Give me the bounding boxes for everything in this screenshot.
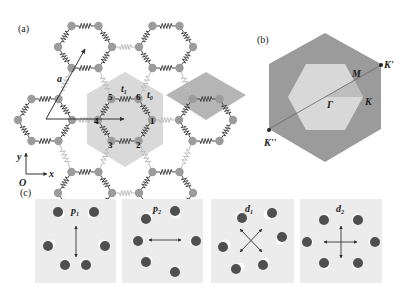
site-label-6: 6 — [136, 92, 141, 102]
lattice-site — [108, 43, 116, 51]
k-prime-label: K' — [383, 59, 394, 70]
lattice-site — [229, 116, 237, 124]
lattice-site — [135, 43, 143, 51]
lattice-site — [188, 137, 196, 145]
displaced-site — [319, 215, 329, 225]
k-double-prime-dot — [267, 128, 271, 132]
displaced-site — [191, 236, 201, 246]
site-label-1: 1 — [150, 116, 155, 126]
lattice-site — [215, 95, 223, 103]
k-prime-dot — [379, 63, 383, 67]
displaced-site — [170, 267, 180, 277]
panel-b-label: (b) — [257, 34, 269, 46]
panel-b: (b) K' K'' M K Γ — [257, 33, 394, 162]
lattice-site — [94, 64, 102, 72]
displaced-site — [370, 237, 380, 247]
displaced-site — [170, 206, 180, 216]
mode-d1: d1 — [211, 199, 294, 283]
displaced-site — [53, 207, 63, 217]
lattice-site — [148, 168, 156, 176]
lattice-site — [135, 189, 143, 197]
k-point-label: K — [364, 96, 373, 107]
mode-d2: d2 — [300, 199, 382, 283]
x-axis-label: x — [48, 168, 54, 179]
mode-p1: p1 — [35, 199, 116, 283]
displaced-site — [141, 214, 151, 224]
lattice-site — [54, 43, 62, 51]
lattice-site — [67, 168, 75, 176]
y-axis-label: y — [16, 151, 22, 162]
mode-p2: p2 — [122, 199, 203, 283]
lattice-site — [215, 137, 223, 145]
unit-cell-diamond — [166, 72, 246, 120]
lattice-site — [175, 116, 183, 124]
displaced-site — [353, 215, 363, 225]
panel-a: (a) a t1 t0 1 2 3 4 5 6 x y O — [14, 22, 246, 217]
displaced-site — [258, 260, 268, 270]
lattice-site — [188, 95, 196, 103]
lattice-site — [54, 137, 62, 145]
displaced-site — [319, 258, 329, 268]
lattice-site — [27, 95, 35, 103]
m-point-label: M — [351, 68, 362, 79]
displaced-site — [141, 257, 151, 267]
displaced-site — [277, 232, 287, 242]
k-double-prime-label: K'' — [263, 137, 276, 148]
site-label-4: 4 — [94, 116, 99, 126]
displaced-site — [43, 241, 53, 251]
figure-canvas: (a) a t1 t0 1 2 3 4 5 6 x y O (b) — [0, 0, 408, 291]
spring — [180, 141, 193, 172]
gamma-point-label: Γ — [326, 99, 334, 110]
displaced-site — [231, 264, 241, 274]
lattice-site — [27, 137, 35, 145]
lattice-site — [148, 22, 156, 30]
displaced-site — [60, 260, 70, 270]
site-label-3: 3 — [108, 140, 113, 150]
lattice-site — [94, 22, 102, 30]
displaced-site — [100, 241, 110, 251]
lattice-site — [68, 116, 76, 124]
displaced-site — [81, 260, 91, 270]
lattice-site — [67, 22, 75, 30]
lattice-site — [108, 189, 116, 197]
displaced-site — [133, 236, 143, 246]
lattice-site — [54, 189, 62, 197]
displaced-site — [353, 258, 363, 268]
lattice-site — [189, 189, 197, 197]
displaced-site — [267, 208, 277, 218]
lattice-site — [148, 64, 156, 72]
lattice-site — [94, 168, 102, 176]
lattice-site — [14, 116, 22, 124]
displaced-site — [302, 237, 312, 247]
panel-c: (c) p1 p2 d1 d2 — [20, 187, 382, 283]
panel-c-label: (c) — [20, 187, 31, 199]
lattice-site — [189, 43, 197, 51]
displaced-site — [237, 213, 247, 223]
panel-a-label: (a) — [18, 23, 29, 35]
lattice-site — [175, 22, 183, 30]
displaced-site — [89, 207, 99, 217]
lattice-vector-label: a — [57, 73, 62, 84]
displaced-site — [218, 242, 228, 252]
site-label-5: 5 — [108, 92, 113, 102]
lattice-site — [175, 64, 183, 72]
site-label-2: 2 — [136, 140, 141, 150]
spring — [59, 141, 72, 172]
lattice-site — [175, 168, 183, 176]
